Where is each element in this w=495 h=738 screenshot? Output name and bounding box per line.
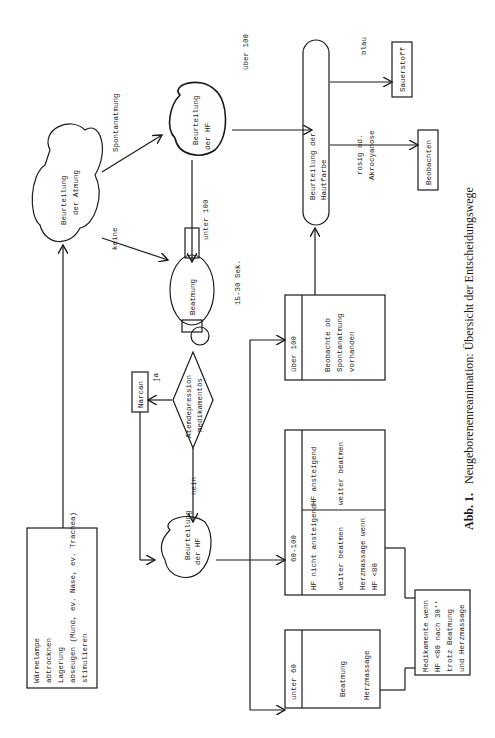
edge-label-spontaneous: Spontanatmung bbox=[112, 93, 120, 152]
caption-text: Neugeborenenreanimation: Übersicht der E… bbox=[462, 187, 476, 484]
initial-care-line-5: stimulieren bbox=[81, 633, 89, 683]
assess-hr-bottom-line-1: Beurteilung bbox=[184, 510, 192, 560]
assess-skin-line-2: Hautfarbe bbox=[320, 159, 328, 200]
hr-over-100-header: über 100 bbox=[290, 335, 298, 372]
initial-care-line-1: Wärmelampe bbox=[33, 638, 41, 683]
ventilation-bag-label: Beatmung bbox=[189, 279, 197, 315]
hr-60-100-a-line-2: weiter beatmen bbox=[337, 442, 345, 505]
hr-under-60-line-2: Herzmassage bbox=[363, 650, 371, 700]
hr-under-60-header: unter 60 bbox=[290, 663, 298, 700]
edge-label-acrocyanosis: Akrocyanose bbox=[368, 130, 376, 180]
flowchart: Wärmelampe abtrocknen Lagerung abseugen … bbox=[0, 0, 495, 738]
assess-hr-top-line-1: Beurteilung bbox=[192, 95, 200, 145]
assess-hr-bottom-line-2: der HF bbox=[194, 538, 202, 565]
edge-label-over-100: über 100 bbox=[242, 33, 250, 70]
assess-breathing-line-1: Beurteilung bbox=[60, 175, 68, 225]
oxygen-label: Sauerstoff bbox=[399, 46, 407, 92]
edge-label-under-100: unter 100 bbox=[202, 199, 210, 240]
edge-label-none: keine bbox=[111, 227, 119, 250]
medications-line-2: HF <80 nach 30'' bbox=[434, 600, 442, 672]
hr-60-100-b-line-2: weiter beatmen bbox=[337, 527, 345, 590]
hr-60-100-b-line-3: Herzmassage wenn bbox=[359, 518, 367, 590]
initial-care-line-2: abtrocknen bbox=[45, 638, 53, 683]
medications-line-3: trotz Beatmung bbox=[446, 609, 454, 672]
edge-label-no: nein bbox=[190, 477, 198, 495]
ventilation-duration: 15-30 Sek. bbox=[234, 260, 242, 305]
edge-label-blue: blau bbox=[360, 37, 368, 55]
assess-breathing-line-2: der Atmung bbox=[72, 170, 80, 215]
edge-label-pink: rosig od. bbox=[356, 134, 364, 175]
hr-60-100-b-line-4: HF <80 bbox=[371, 562, 379, 590]
caption-label: Abb. 1. bbox=[462, 493, 476, 530]
hr-60-100-box bbox=[285, 430, 385, 595]
decision-diamond bbox=[173, 352, 213, 448]
assess-skin-line-1: Beurteilung der bbox=[309, 132, 317, 200]
hr-60-100-b-line-1: HF nicht ansteigend bbox=[310, 504, 318, 590]
figure-page: Wärmelampe abtrocknen Lagerung abseugen … bbox=[0, 0, 495, 738]
edge-label-yes: ja bbox=[152, 372, 160, 382]
initial-care-line-3: Lagerung bbox=[57, 647, 65, 683]
drug-depression-line-2: medikamentös bbox=[196, 378, 204, 432]
hr-over-100-line-3: vorhanden bbox=[348, 331, 356, 372]
hr-over-100-line-1: Beobachte ob bbox=[324, 318, 332, 372]
initial-care-line-4: abseugen (Mund, ev. Nase, ev. Trachea) bbox=[69, 512, 77, 683]
hr-60-100-header: 60-100 bbox=[290, 534, 298, 562]
medications-line-1: Medikamente wenn bbox=[422, 600, 430, 672]
drug-depression-line-1: Atemdepression bbox=[185, 375, 193, 438]
hr-over-100-box bbox=[285, 295, 385, 380]
hr-over-100-line-2: Spontanatmung bbox=[336, 313, 344, 372]
hr-60-100-a-line-1: HF ansteigend bbox=[310, 446, 318, 505]
medications-line-4: und Herzmassage bbox=[458, 604, 466, 672]
figure-caption: Abb. 1. Neugeborenenreanimation: Übersic… bbox=[462, 187, 476, 530]
narcan-label: Narcan bbox=[137, 381, 145, 408]
hr-under-60-line-1: Beatmung bbox=[339, 661, 347, 697]
assess-hr-top-line-2: der HF bbox=[204, 123, 212, 150]
observe-label: Beobachten bbox=[425, 140, 433, 185]
